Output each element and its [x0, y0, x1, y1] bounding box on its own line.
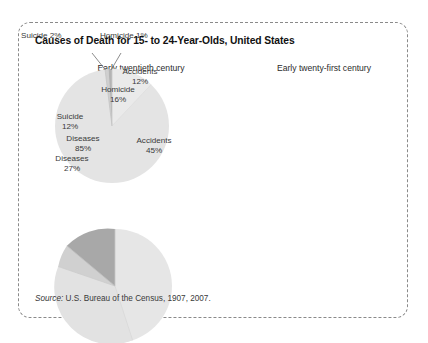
left-label-diseases-name: Diseases	[66, 134, 99, 143]
right-label-diseases-name: Diseases	[55, 154, 88, 163]
left-leader-line-suicide	[92, 53, 106, 70]
left-label-diseases: Diseases 85%	[52, 134, 114, 154]
source-label: Source:	[35, 294, 63, 303]
left-callout-homicide: Homicide 1%	[100, 31, 148, 40]
right-chart-subtitle: Early twenty-first century	[249, 63, 399, 73]
left-label-accidents: Accidents 12%	[109, 67, 171, 87]
right-label-accidents: Accidents 45%	[123, 136, 185, 156]
right-label-homicide-name: Homicide	[101, 85, 135, 94]
right-label-suicide-value: 12%	[62, 122, 78, 131]
right-label-homicide: Homicide 16%	[87, 85, 149, 105]
right-label-diseases: Diseases 27%	[41, 154, 103, 174]
left-callout-suicide: Suicide 2%	[21, 31, 62, 40]
right-label-homicide-value: 16%	[110, 95, 126, 104]
right-label-diseases-value: 27%	[64, 164, 80, 173]
figure-frame: Causes of Death for 15- to 24-Year-Olds,…	[18, 22, 408, 318]
right-label-suicide-name: Suicide	[57, 112, 84, 121]
right-label-accidents-value: 45%	[146, 146, 162, 155]
left-label-accidents-name: Accidents	[122, 67, 157, 76]
right-label-accidents-name: Accidents	[136, 136, 171, 145]
source-text: U.S. Bureau of the Census, 1907, 2007.	[63, 294, 210, 303]
right-pie-svg	[19, 183, 179, 343]
right-label-suicide: Suicide 12%	[39, 112, 101, 132]
left-label-diseases-value: 85%	[75, 144, 91, 153]
source-note: Source: U.S. Bureau of the Census, 1907,…	[35, 294, 211, 303]
right-pie-chart: Homicide 16% Suicide 12% Accidents 45% D…	[19, 183, 179, 343]
